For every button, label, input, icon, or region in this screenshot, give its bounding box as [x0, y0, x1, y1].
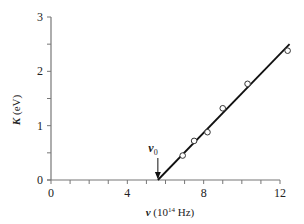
y-axis [47, 17, 51, 180]
y-tick-label: 2 [37, 64, 43, 78]
nu0-label: ν0 [148, 141, 157, 157]
threshold-annotation: ν0 [148, 141, 161, 179]
x-tick-labels: 04812 [48, 186, 286, 200]
y-tick-labels: 0123 [37, 10, 43, 187]
x-tick-label: 8 [201, 186, 207, 200]
data-point-marker [180, 153, 186, 159]
y-axis-label: K (eV) [10, 95, 23, 127]
y-tick-label: 0 [37, 173, 43, 187]
x-tick-label: 12 [274, 186, 286, 200]
x-axis [47, 180, 280, 184]
data-point-marker [245, 81, 251, 87]
x-tick-label: 0 [48, 186, 54, 200]
y-tick-label: 3 [37, 10, 43, 24]
x-tick-label: 4 [124, 186, 130, 200]
data-point-marker [285, 48, 291, 54]
arrow-down-icon [155, 158, 161, 179]
data-point-marker [191, 138, 197, 144]
data-point-marker [205, 129, 211, 135]
data-points [180, 48, 291, 158]
fit-line [158, 44, 290, 180]
data-point-marker [220, 105, 226, 111]
x-axis-label: ν (1014 Hz) [146, 206, 195, 219]
y-tick-label: 1 [37, 119, 43, 133]
photoelectric-chart: 0123 04812 K (eV) ν (1014 Hz) ν0 [0, 0, 304, 224]
